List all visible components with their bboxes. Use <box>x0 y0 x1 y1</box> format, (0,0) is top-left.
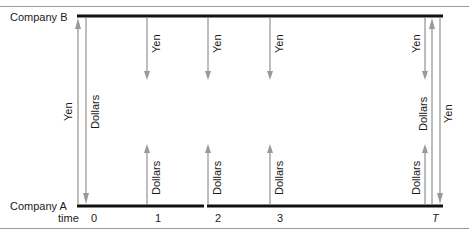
arrowhead-up-icon <box>144 144 150 153</box>
flow-label-t3-yen: Yen <box>274 34 285 53</box>
time-tick-3: 3 <box>277 213 283 224</box>
time-tick-1: 1 <box>155 213 161 224</box>
time-axis-label: time <box>58 213 79 224</box>
company-a-label: Company A <box>10 201 67 212</box>
time-tick-T: T <box>432 213 439 224</box>
time-tick-2: 2 <box>215 213 221 224</box>
arrowhead-down-icon <box>267 71 273 80</box>
flow-label-t0-yen: Yen <box>63 102 74 121</box>
arrowhead-up-icon <box>429 18 435 29</box>
flow-label-tT-dollars-short: Dollars <box>411 161 422 195</box>
company-b-label: Company B <box>10 12 67 23</box>
flow-label-t2-yen: Yen <box>212 34 223 53</box>
arrowhead-up-icon <box>267 144 273 153</box>
flow-label-t1-dollars: Dollars <box>151 161 162 195</box>
flow-label-tT-dollars-full: Dollars <box>418 97 429 131</box>
arrowhead-up-icon <box>75 18 81 29</box>
arrowhead-down-icon <box>422 71 428 80</box>
arrowhead-down-icon <box>205 71 211 80</box>
arrowhead-down-icon <box>437 193 443 204</box>
flow-label-t1-yen: Yen <box>151 34 162 53</box>
arrowhead-down-icon <box>144 71 150 80</box>
flow-label-t2-dollars: Dollars <box>212 161 223 195</box>
arrowhead-up-icon <box>422 144 428 153</box>
flow-label-tT-yen-short: Yen <box>411 34 422 53</box>
arrowhead-down-icon <box>83 193 89 204</box>
flow-label-tT-yen-full: Yen <box>443 104 454 123</box>
time-tick-0: 0 <box>91 213 97 224</box>
flow-label-t3-dollars: Dollars <box>274 161 285 195</box>
arrowhead-up-icon <box>205 144 211 153</box>
flow-label-t0-dollars: Dollars <box>90 95 101 129</box>
